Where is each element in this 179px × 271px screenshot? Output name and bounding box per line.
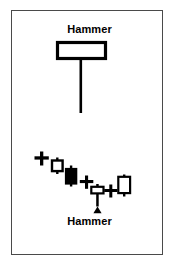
candle-6-body-cross <box>104 189 117 192</box>
hammer-lower-shadow <box>80 57 83 113</box>
candle-3-body-filled <box>66 169 76 184</box>
candle-5-body-hollow <box>91 187 103 194</box>
candle-1-body-cross <box>35 156 49 159</box>
candle-5-hammer <box>91 184 103 207</box>
candle-6-doji <box>104 185 117 198</box>
candle-7-hollow <box>118 175 130 197</box>
candlestick-figure: Hammer <box>0 0 179 271</box>
candle-2-hollow <box>52 158 63 175</box>
candle-4-body-cross <box>80 180 94 183</box>
hammer-candle-large <box>58 43 106 114</box>
candle-2-body-hollow <box>52 161 63 172</box>
candle-1-doji <box>35 152 49 166</box>
bottom-hammer-label: Hammer <box>0 215 179 227</box>
candle-7-body-hollow <box>118 177 130 193</box>
hammer-body-hollow <box>58 43 106 59</box>
bullish-signal-arrow-icon <box>93 207 101 214</box>
candle-3-filled <box>66 166 76 187</box>
candlestick-drawing <box>0 0 179 271</box>
